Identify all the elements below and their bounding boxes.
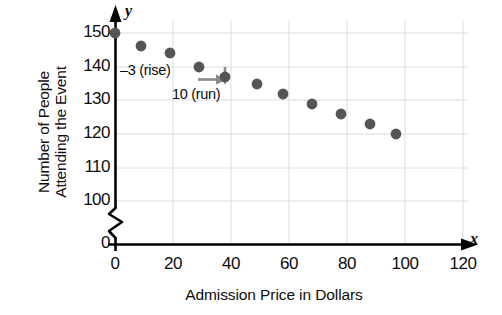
data-point [136, 41, 147, 52]
y-axis [109, 5, 122, 251]
x-axis-title: Admission Price in Dollars [0, 286, 502, 304]
y-axis-letter: y [125, 2, 132, 20]
x-tick-label-120: 120 [440, 254, 486, 274]
x-axis [108, 239, 478, 251]
rise-annotation-label: –3 (rise) [120, 62, 170, 78]
data-point [336, 109, 347, 120]
x-tick-label-40: 40 [208, 254, 254, 274]
x-tick-label-20: 20 [150, 254, 196, 274]
data-point [194, 62, 205, 73]
run-annotation-label: 10 (run) [172, 86, 220, 102]
x-tick-label-100: 100 [382, 254, 428, 274]
x-tick-label-80: 80 [324, 254, 370, 274]
data-point [278, 89, 289, 100]
x-tick-label-0: 0 [92, 254, 138, 274]
data-point [307, 99, 318, 110]
y-tick-label-120: 120 [64, 123, 110, 143]
y-tick-label-140: 140 [64, 56, 110, 76]
x-axis-letter: x [470, 230, 478, 248]
y-tick-label-110: 110 [64, 157, 110, 177]
data-point [252, 79, 263, 90]
data-point [165, 48, 176, 59]
y-tick-label-130: 130 [64, 89, 110, 109]
y-tick-label-150: 150 [64, 22, 110, 42]
x-tick-label-60: 60 [266, 254, 312, 274]
data-point [220, 72, 231, 83]
y-tick-label-100: 100 [64, 190, 110, 210]
data-point [110, 28, 121, 39]
data-point [391, 129, 402, 140]
data-point [365, 119, 376, 130]
data-points [110, 28, 402, 140]
scatter-chart: 150 140 130 120 110 100 0 0 20 40 60 80 … [0, 0, 502, 315]
y-tick-label-0: 0 [64, 233, 110, 253]
